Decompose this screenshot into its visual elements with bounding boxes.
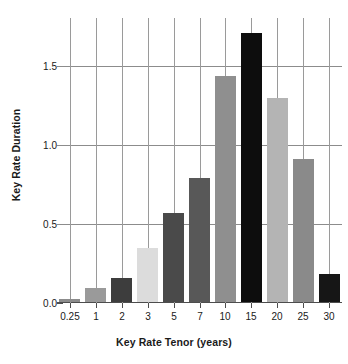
bar-7 [189,178,210,302]
bar-5 [163,213,184,302]
y-tick-label: 1.5 [23,61,57,72]
bar-1 [85,288,106,302]
x-axis-ticks: 0.25123571015202530 [57,303,342,333]
y-axis-ticks: 0.00.51.01.5 [16,18,57,303]
x-tick-mark [303,303,304,308]
gridline-vertical [329,18,330,303]
x-tick-mark [225,303,226,308]
x-tick-mark [122,303,123,308]
y-tick-label: 0.0 [23,298,57,309]
key-rate-duration-bar-chart: Key Rate Duration 0.00.51.01.5 0.2512357… [0,0,348,364]
x-tick-mark [251,303,252,308]
x-tick-mark [70,303,71,308]
x-axis-title: Key Rate Tenor (years) [0,336,348,348]
bar-10 [215,76,236,302]
x-tick-mark [200,303,201,308]
bar-3 [137,248,158,302]
y-tick-label: 0.5 [23,219,57,230]
x-tick-mark [277,303,278,308]
y-tick-label: 1.0 [23,140,57,151]
bar-0.25 [59,299,80,302]
bar-15 [241,33,262,302]
x-tick-mark [174,303,175,308]
plot-area [57,18,342,303]
x-tick-label: 30 [309,311,348,322]
x-tick-mark [148,303,149,308]
x-tick-mark [329,303,330,308]
bar-30 [319,274,340,302]
x-tick-mark [96,303,97,308]
bar-2 [111,278,132,302]
bar-20 [267,98,288,302]
gridline-vertical [70,18,71,303]
gridline-vertical [122,18,123,303]
bar-25 [293,159,314,302]
gridline-vertical [96,18,97,303]
